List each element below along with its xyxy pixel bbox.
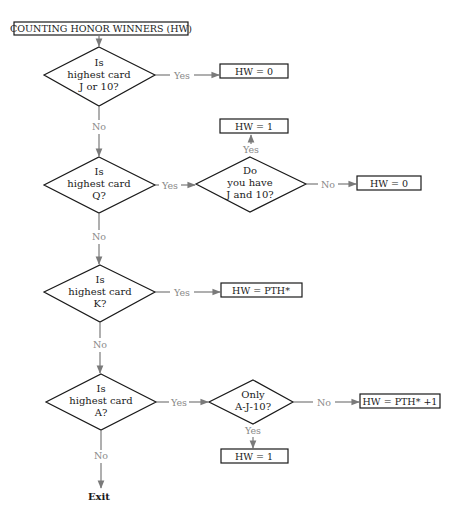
svg-text:A-J-10?: A-J-10?	[234, 401, 271, 412]
flowchart: COUNTING HONOR WINNERS (HW) Is highest c…	[0, 0, 460, 522]
label-yes: Yes	[170, 397, 187, 408]
svg-text:Only: Only	[241, 389, 265, 400]
decision-highest-q: Is highest card Q?	[44, 157, 155, 213]
svg-text:Is: Is	[94, 57, 103, 68]
svg-text:HW = PTH* +1: HW = PTH* +1	[363, 396, 438, 407]
outcome-hw-1-d4b: HW = 1	[221, 449, 288, 463]
outcome-hw-0-d2b: HW = 0	[357, 176, 421, 190]
svg-text:highest card: highest card	[69, 395, 133, 406]
decision-highest-k: Is highest card K?	[44, 265, 155, 322]
label-yes: Yes	[173, 70, 190, 81]
decision-highest-j-or-10: Is highest card J or 10?	[44, 47, 155, 106]
svg-text:J and 10?: J and 10?	[225, 189, 273, 200]
svg-text:HW = 0: HW = 0	[235, 66, 273, 77]
title-box: COUNTING HONOR WINNERS (HW)	[10, 22, 192, 35]
label-no: No	[92, 231, 106, 242]
label-no: No	[92, 121, 106, 132]
svg-text:highest card: highest card	[67, 178, 131, 189]
label-no: No	[321, 179, 335, 190]
exit-label: Exit	[88, 491, 110, 502]
label-yes: Yes	[244, 425, 261, 436]
decision-have-j-and-10: Do you have J and 10?	[196, 157, 306, 212]
svg-text:Is: Is	[96, 383, 105, 394]
svg-text:highest card: highest card	[68, 286, 132, 297]
decision-highest-a: Is highest card A?	[46, 374, 156, 430]
flowchart-title: COUNTING HONOR WINNERS (HW)	[10, 23, 192, 34]
label-no: No	[94, 450, 108, 461]
svg-text:you have: you have	[226, 177, 272, 188]
outcome-hw-0-d1: HW = 0	[220, 64, 288, 78]
svg-text:HW = 1: HW = 1	[235, 121, 273, 132]
label-no: No	[93, 339, 107, 350]
svg-text:K?: K?	[94, 298, 107, 309]
decision-only-a-j-10: Only A-J-10?	[209, 380, 293, 424]
label-yes: Yes	[161, 180, 178, 191]
outcome-hw-1-d2b: HW = 1	[220, 119, 288, 133]
label-yes: Yes	[173, 287, 190, 298]
svg-text:Q?: Q?	[92, 190, 106, 201]
label-yes: Yes	[242, 144, 259, 155]
svg-text:Do: Do	[243, 165, 257, 176]
svg-text:Is: Is	[94, 166, 103, 177]
label-no: No	[317, 397, 331, 408]
svg-text:A?: A?	[94, 407, 108, 418]
svg-text:HW = 0: HW = 0	[370, 178, 408, 189]
svg-text:Is: Is	[95, 274, 104, 285]
svg-text:HW = 1: HW = 1	[235, 451, 273, 462]
outcome-hw-pth: HW = PTH*	[221, 283, 302, 297]
svg-text:HW = PTH*: HW = PTH*	[232, 285, 290, 296]
outcome-hw-pth-plus-1: HW = PTH* +1	[360, 394, 440, 408]
svg-text:J or 10?: J or 10?	[78, 81, 118, 92]
svg-text:highest card: highest card	[67, 69, 131, 80]
